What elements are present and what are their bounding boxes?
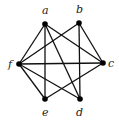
edges-group	[19, 23, 103, 99]
node-c	[100, 60, 106, 66]
node-label-a: a	[42, 4, 49, 17]
edge-a-f	[19, 24, 45, 64]
node-label-f: f	[7, 58, 14, 71]
edge-b-c	[79, 23, 103, 63]
node-e	[42, 96, 48, 102]
edge-f-e	[19, 64, 45, 99]
node-label-b: b	[76, 3, 83, 16]
edge-b-f	[19, 23, 79, 64]
graph-diagram: abcdef	[0, 0, 119, 122]
node-f	[16, 61, 22, 67]
edge-c-e	[45, 63, 103, 99]
node-b	[76, 20, 82, 26]
edge-f-c	[19, 63, 103, 64]
edge-b-d	[79, 23, 80, 99]
node-d	[77, 96, 83, 102]
node-label-e: e	[42, 106, 49, 119]
node-label-c: c	[108, 57, 114, 70]
node-label-d: d	[76, 106, 83, 119]
node-a	[42, 21, 48, 27]
edge-f-d	[19, 64, 80, 99]
